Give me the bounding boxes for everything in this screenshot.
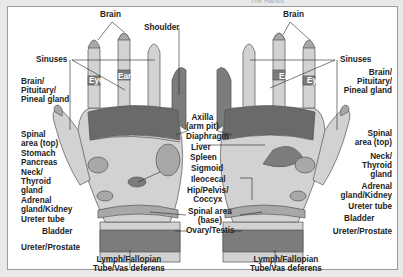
label-eye-left: Eye [89,76,104,85]
label-adrenal-left: Adrenal gland/Kidney [21,196,72,214]
label-sinuses-right: Sinuses [340,55,371,64]
label-ureter-tube-right: Ureter tube [348,202,392,211]
label-lymph-right: Lymph/Fallopian Tube/Vas deferens [250,255,322,273]
label-brain-pituitary-right: Brain/ Pituitary/ Pineal gland [344,68,392,95]
label-brain-pituitary-left: Brain/ Pituitary/ Pineal gland [21,77,69,104]
label-sigmoid: Sigmoid [191,164,223,173]
label-ureter-tube-left: Ureter tube [21,215,65,224]
label-spleen: Spleen [190,153,217,162]
label-spinal-top-right: Spinal area (top) [355,129,392,147]
label-adrenal-right: Adrenal gland/Kidney [341,182,392,200]
label-brain-left: Brain [100,10,121,19]
label-ear-left: Ear [118,72,131,81]
label-spinal-top-left: Spinal area (top) [21,130,58,148]
right-hand [217,33,350,262]
left-hand [53,33,186,262]
label-pancreas: Pancreas [21,158,57,167]
label-stomach: Stomach [21,149,56,158]
label-lymph-left: Lymph/Fallopian Tube/Vas deferens [93,255,165,273]
label-brain-right: Brain [283,10,304,19]
label-ileocecal: Ileocecal [191,175,226,184]
label-ureter-prostate-left: Ureter/Prostate [21,243,80,252]
label-spinal-base: Spinal area (base) [188,207,232,225]
label-hip-pelvis: Hip/Pelvis/ Coccyx [187,186,228,204]
label-diaphragm: Diaphragm [186,132,229,141]
label-ovary-testis: Ovary/Testis [186,226,235,235]
label-bladder-right: Bladder [344,214,374,223]
label-ear-right: Ear [279,72,292,81]
label-neck-thyroid-left: Neck/ Thyroid gland [21,168,51,195]
label-eye-right: Eye [307,76,322,85]
label-neck-thyroid-right: Neck/ Thyroid gland [362,152,392,179]
label-liver: Liver [191,143,211,152]
label-shoulder: Shoulder [144,23,179,32]
label-axilla: Axilla (arm pit) [186,113,219,131]
label-sinuses-left: Sinuses [36,55,67,64]
label-bladder-left: Bladder [42,227,72,236]
label-ureter-prostate-right: Ureter/Prostate [333,227,392,236]
